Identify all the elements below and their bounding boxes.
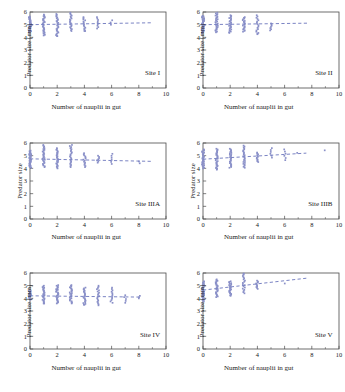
svg-text:6: 6	[282, 221, 285, 228]
svg-text:3: 3	[24, 177, 27, 184]
svg-text:10: 10	[335, 352, 341, 359]
svg-text:0: 0	[196, 215, 199, 222]
x-axis-label: Number of nauplii in gut	[173, 233, 345, 241]
svg-text:4: 4	[196, 164, 200, 171]
panel-site-i: 02468100123456Predator size [mm]Number o…	[0, 0, 173, 131]
svg-text:5: 5	[24, 152, 27, 159]
svg-text:0: 0	[201, 352, 204, 359]
data-column	[42, 14, 46, 37]
svg-text:6: 6	[24, 139, 27, 146]
data-column	[228, 281, 232, 297]
panel-title: Site I	[114, 69, 160, 77]
svg-text:4: 4	[83, 221, 87, 228]
panel-site-iv: 02468100123456Predator size [mm]Number o…	[0, 261, 173, 392]
svg-text:4: 4	[255, 352, 259, 359]
data-column	[214, 12, 218, 33]
data-column	[255, 151, 258, 162]
trend-line	[203, 153, 306, 159]
svg-text:8: 8	[310, 352, 313, 359]
data-column	[241, 273, 245, 294]
panel-title: Site V	[287, 331, 333, 339]
data-column	[269, 147, 272, 158]
svg-text:2: 2	[56, 221, 59, 228]
data-column	[255, 280, 258, 290]
trend-line	[203, 278, 308, 290]
panel-site-iiia: 02468100123456Predator sizeNumber of nau…	[0, 131, 173, 262]
data-column	[42, 144, 46, 168]
svg-text:8: 8	[137, 352, 140, 359]
data-column	[55, 13, 59, 37]
x-axis-label: Number of nauplii in gut	[0, 103, 173, 111]
panel-site-v: 02468100123456Predator size [mm]Number o…	[173, 261, 345, 392]
trend-line	[30, 158, 152, 161]
data-column	[228, 148, 232, 169]
svg-text:0: 0	[196, 84, 199, 91]
data-column	[42, 285, 46, 304]
svg-text:10: 10	[335, 221, 341, 228]
panel-title: Site IIIA	[114, 200, 160, 208]
svg-text:2: 2	[56, 352, 59, 359]
panel-title: Site IIIB	[287, 200, 333, 208]
svg-text:8: 8	[137, 90, 140, 97]
svg-text:6: 6	[282, 352, 285, 359]
y-axis-label: Predator size [mm]	[197, 24, 204, 76]
svg-text:6: 6	[196, 139, 199, 146]
y-axis-label: Predator size [mm]	[25, 24, 32, 76]
panel-title: Site II	[287, 69, 333, 77]
data-column	[69, 12, 73, 32]
svg-text:2: 2	[228, 221, 231, 228]
panel-title: Site IV	[114, 331, 160, 339]
svg-text:4: 4	[255, 221, 259, 228]
panel-site-iiib: 02468100123456Predator sizeNumber of nau…	[173, 131, 345, 262]
svg-text:0: 0	[28, 90, 31, 97]
svg-text:1: 1	[196, 202, 199, 209]
svg-text:0: 0	[201, 221, 204, 228]
svg-text:8: 8	[310, 90, 313, 97]
data-column	[110, 153, 113, 165]
svg-text:2: 2	[56, 90, 59, 97]
data-column	[283, 283, 285, 285]
svg-text:6: 6	[110, 90, 113, 97]
data-column	[96, 285, 100, 306]
data-column	[323, 149, 325, 151]
svg-text:6: 6	[282, 90, 285, 97]
svg-text:4: 4	[24, 164, 28, 171]
svg-text:5: 5	[196, 152, 199, 159]
svg-text:0: 0	[196, 346, 199, 353]
svg-text:2: 2	[228, 352, 231, 359]
svg-text:6: 6	[110, 352, 113, 359]
svg-text:6: 6	[110, 221, 113, 228]
x-axis-label: Number of nauplii in gut	[0, 233, 173, 241]
data-column	[255, 14, 259, 35]
svg-text:6: 6	[196, 8, 199, 15]
svg-text:0: 0	[24, 84, 27, 91]
trend-line	[30, 23, 152, 25]
svg-text:10: 10	[163, 221, 169, 228]
data-column	[110, 19, 113, 25]
data-column	[55, 147, 58, 169]
svg-text:0: 0	[201, 90, 204, 97]
y-axis-label: Predator size [mm]	[25, 285, 32, 337]
svg-text:4: 4	[83, 352, 87, 359]
y-axis-label: Predator size	[189, 163, 196, 199]
data-column	[296, 152, 298, 154]
svg-text:10: 10	[163, 352, 169, 359]
svg-text:8: 8	[310, 221, 313, 228]
data-column	[69, 144, 73, 168]
svg-text:2: 2	[196, 190, 199, 197]
svg-text:2: 2	[228, 90, 231, 97]
svg-text:4: 4	[83, 90, 87, 97]
x-axis-label: Number of nauplii in gut	[173, 103, 345, 111]
svg-text:4: 4	[255, 90, 259, 97]
data-column	[69, 285, 73, 305]
data-column	[96, 16, 99, 29]
svg-text:0: 0	[24, 346, 27, 353]
data-column	[214, 148, 218, 171]
y-axis-label: Predator size [mm]	[197, 285, 204, 337]
svg-text:10: 10	[163, 90, 169, 97]
svg-text:2: 2	[24, 190, 27, 197]
data-column	[96, 155, 100, 164]
x-axis-label: Number of nauplii in gut	[173, 364, 345, 372]
svg-text:0: 0	[28, 352, 31, 359]
figure-grid: 02468100123456Predator size [mm]Number o…	[0, 0, 345, 392]
